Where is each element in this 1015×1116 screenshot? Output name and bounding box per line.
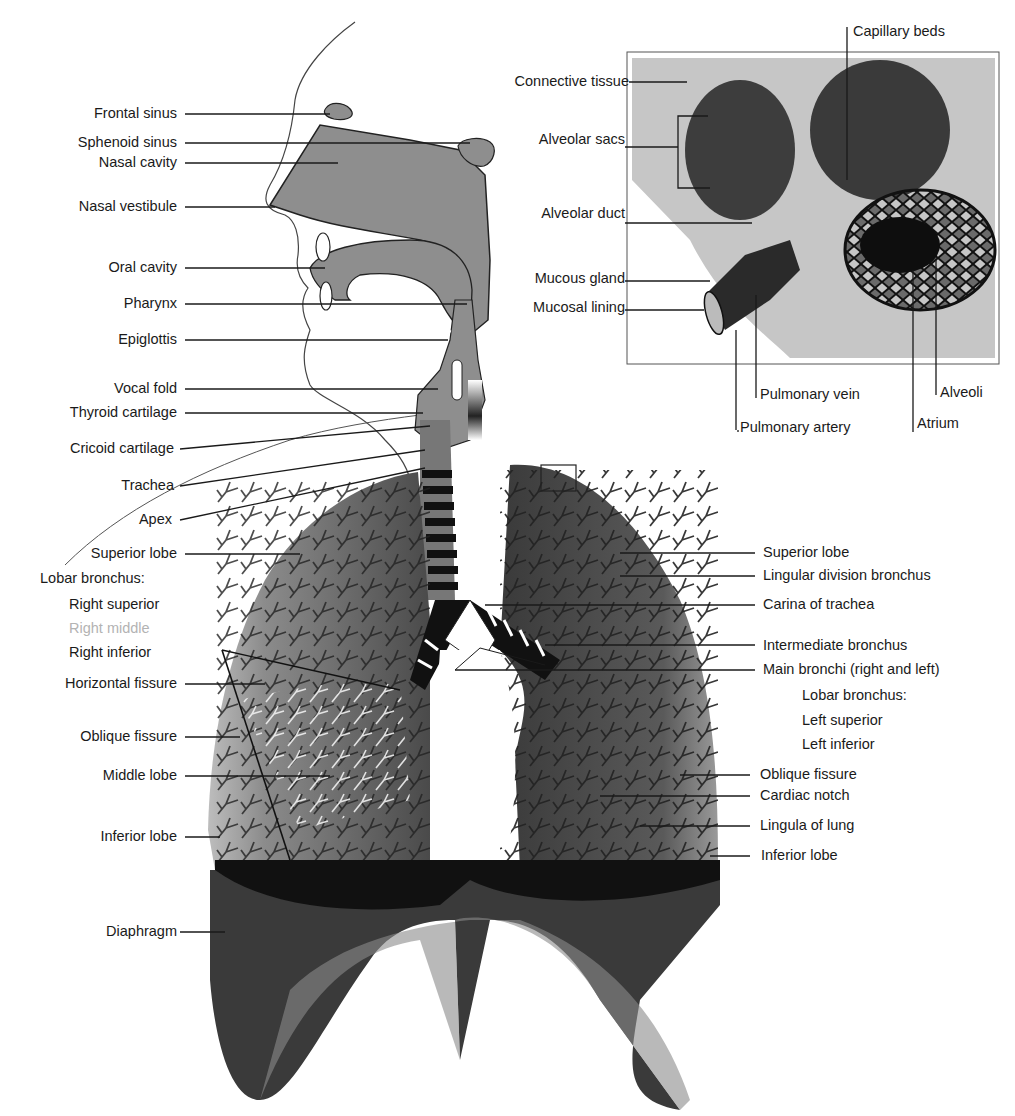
label-intermediate-bronchus: Intermediate bronchus bbox=[763, 637, 907, 654]
label-right-superior-lobe: Superior lobe bbox=[91, 545, 177, 562]
label-horizontal-fissure: Horizontal fissure bbox=[65, 675, 177, 692]
label-right-inferior-bronchus: Right inferior bbox=[69, 644, 151, 661]
label-oral-cavity: Oral cavity bbox=[109, 259, 178, 276]
label-left-superior-lobe: Superior lobe bbox=[763, 544, 849, 561]
label-right-lobar-bronchus-heading: Lobar bronchus: bbox=[40, 570, 145, 587]
label-mucous-gland: Mucous gland bbox=[535, 270, 625, 287]
label-pharynx: Pharynx bbox=[124, 295, 177, 312]
label-trachea: Trachea bbox=[121, 477, 174, 494]
label-alveoli: Alveoli bbox=[940, 384, 983, 401]
label-cricoid-cartilage: Cricoid cartilage bbox=[70, 440, 174, 457]
label-middle-lobe: Middle lobe bbox=[103, 767, 177, 784]
label-thyroid-cartilage: Thyroid cartilage bbox=[70, 404, 177, 421]
alveoli-inset bbox=[627, 52, 999, 364]
label-left-superior-bronchus: Left superior bbox=[802, 712, 883, 729]
label-nasal-vestibule: Nasal vestibule bbox=[79, 198, 177, 215]
label-left-inferior-bronchus: Left inferior bbox=[802, 736, 875, 753]
label-cardiac-notch: Cardiac notch bbox=[760, 787, 849, 804]
label-epiglottis: Epiglottis bbox=[118, 331, 177, 348]
label-right-middle-bronchus: Right middle bbox=[69, 620, 150, 637]
label-vocal-fold: Vocal fold bbox=[114, 380, 177, 397]
label-lingula-of-lung: Lingula of lung bbox=[760, 817, 854, 834]
label-apex: Apex bbox=[139, 511, 172, 528]
diaphragm-shape bbox=[210, 860, 720, 1110]
label-left-oblique-fissure: Oblique fissure bbox=[760, 766, 857, 783]
label-left-inferior-lobe: Inferior lobe bbox=[761, 847, 838, 864]
label-alveolar-duct: Alveolar duct bbox=[541, 205, 625, 222]
label-left-lobar-bronchus-heading: Lobar bronchus: bbox=[802, 687, 907, 704]
label-diaphragm: Diaphragm bbox=[106, 923, 177, 940]
label-right-superior-bronchus: Right superior bbox=[69, 596, 159, 613]
label-sphenoid-sinus: Sphenoid sinus bbox=[78, 134, 177, 151]
label-capillary-beds: Capillary beds bbox=[853, 23, 945, 40]
label-carina-of-trachea: Carina of trachea bbox=[763, 596, 874, 613]
label-atrium: Atrium bbox=[917, 415, 959, 432]
label-connective-tissue: Connective tissue bbox=[515, 73, 629, 90]
label-right-oblique-fissure: Oblique fissure bbox=[80, 728, 177, 745]
label-nasal-cavity: Nasal cavity bbox=[99, 154, 177, 171]
label-pulmonary-vein: Pulmonary vein bbox=[760, 386, 860, 403]
label-pulmonary-artery: Pulmonary artery bbox=[740, 419, 850, 436]
right-lung-shape bbox=[208, 472, 430, 870]
label-lingular-division-bronchus: Lingular division bronchus bbox=[763, 567, 931, 584]
label-frontal-sinus: Frontal sinus bbox=[94, 105, 177, 122]
label-main-bronchi: Main bronchi (right and left) bbox=[763, 661, 940, 678]
label-right-inferior-lobe: Inferior lobe bbox=[100, 828, 177, 845]
label-mucosal-lining: Mucosal lining bbox=[533, 299, 625, 316]
label-alveolar-sacs: Alveolar sacs bbox=[539, 131, 625, 148]
